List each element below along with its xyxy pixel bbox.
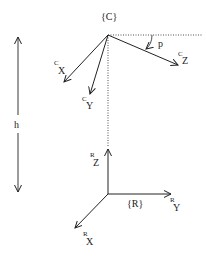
robot-frame-label: {R} <box>127 198 143 209</box>
height-arrow: h <box>14 37 19 192</box>
camera-y-axis <box>90 35 108 94</box>
camera-x-axis <box>64 35 108 82</box>
robot-x-label: X <box>86 236 94 247</box>
camera-x-label: X <box>58 65 66 76</box>
height-label: h <box>14 119 19 130</box>
angle-arc <box>146 35 152 49</box>
camera-z-axis <box>108 35 178 65</box>
robot-x-axis <box>75 194 108 228</box>
robot-y-label: Y <box>173 202 180 213</box>
camera-y-label: Y <box>86 100 93 111</box>
robot-z-label: Z <box>93 157 99 168</box>
camera-frame-label: {C} <box>101 11 117 22</box>
camera-frame: {C} p C Z C X C Y <box>54 11 202 146</box>
robot-frame: R Z R Y {R} R X <box>75 149 180 247</box>
coordinate-frames-diagram: h {C} p C Z C X C Y R Z R Y {R} <box>0 0 206 259</box>
angle-label: p <box>158 38 163 49</box>
camera-z-label: Z <box>182 55 188 66</box>
